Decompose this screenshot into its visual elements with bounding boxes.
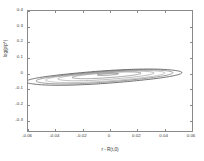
x-tickmark-top bbox=[55, 11, 56, 13]
x-tickmark bbox=[83, 129, 84, 131]
y-axis-label: log(p/p*) bbox=[3, 27, 8, 71]
y-tick-label: 0 bbox=[6, 70, 23, 74]
x-tick-label: -0.02 bbox=[77, 134, 87, 138]
y-tickmark bbox=[28, 11, 30, 12]
x-tick-label: 0 bbox=[108, 134, 110, 138]
x-tickmark bbox=[28, 129, 29, 131]
x-tickmark bbox=[110, 129, 111, 131]
x-tickmark-top bbox=[110, 11, 111, 13]
y-tick-label: -0.3 bbox=[6, 117, 23, 121]
y-tick-label: 0.1 bbox=[6, 55, 23, 59]
y-tick-label: 0.2 bbox=[6, 39, 23, 43]
x-tick-label: 0.06 bbox=[187, 134, 196, 138]
x-tickmark bbox=[192, 129, 193, 131]
contour-group bbox=[28, 69, 182, 85]
figure-container: -0.06 -0.04 -0.02 0 0.02 0.04 0.06 0.4 0… bbox=[0, 0, 204, 161]
x-axis-label: r - R(t,0) bbox=[27, 147, 193, 152]
y-tickmark bbox=[28, 27, 30, 28]
contour-plot-svg bbox=[28, 11, 192, 131]
y-tickmark-right bbox=[190, 58, 192, 59]
y-tickmark bbox=[28, 89, 30, 90]
y-tickmark-right bbox=[190, 42, 192, 43]
y-tickmark bbox=[28, 121, 30, 122]
y-tick-label: 0.4 bbox=[6, 8, 23, 12]
x-tick-label: 0.04 bbox=[159, 134, 168, 138]
y-tickmark-right bbox=[190, 105, 192, 106]
y-tickmark bbox=[28, 42, 30, 43]
y-tickmark bbox=[28, 74, 30, 75]
y-tickmark bbox=[28, 105, 30, 106]
contour-orbit-1-innermost bbox=[97, 73, 118, 75]
plot-area bbox=[27, 10, 193, 132]
x-tick-label: 0.02 bbox=[132, 134, 141, 138]
x-tickmark bbox=[137, 129, 138, 131]
y-tickmark-right bbox=[190, 74, 192, 75]
y-tickmark-right bbox=[190, 27, 192, 28]
y-tick-label: 0.3 bbox=[6, 23, 23, 27]
y-tick-label: -0.1 bbox=[6, 86, 23, 90]
y-tick-label: -0.2 bbox=[6, 102, 23, 106]
x-tick-label: -0.06 bbox=[22, 134, 32, 138]
y-tickmark-right bbox=[190, 121, 192, 122]
y-tickmark bbox=[28, 58, 30, 59]
y-tickmark-right bbox=[190, 89, 192, 90]
x-tickmark-top bbox=[165, 11, 166, 13]
x-tick-label: -0.04 bbox=[49, 134, 59, 138]
x-tickmark bbox=[55, 129, 56, 131]
x-tickmark bbox=[165, 129, 166, 131]
x-tickmark-top bbox=[83, 11, 84, 13]
x-tickmark-top bbox=[137, 11, 138, 13]
